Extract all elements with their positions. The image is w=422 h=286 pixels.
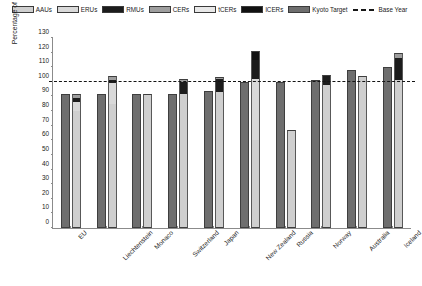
bar-group bbox=[196, 38, 232, 228]
legend-dashed-line-icon bbox=[353, 6, 377, 13]
x-axis-tick-mark bbox=[177, 226, 178, 229]
kyoto-target-bar bbox=[168, 94, 177, 228]
legend-item-rmus: RMUs bbox=[102, 6, 144, 13]
y-axis-tick-label: 130 bbox=[23, 29, 49, 35]
bar-segment-erus bbox=[108, 83, 117, 103]
legend-swatch-erus-icon bbox=[57, 6, 79, 13]
bar-segment-erus bbox=[251, 79, 260, 140]
kyoto-target-bar bbox=[311, 80, 320, 228]
kyoto-target-bar bbox=[204, 91, 213, 228]
bar-segment-rmus bbox=[179, 82, 188, 94]
kyoto-target-bar bbox=[97, 94, 106, 228]
stacked-emissions-bar bbox=[108, 76, 117, 228]
bar-group bbox=[232, 38, 268, 228]
kyoto-target-bar bbox=[276, 82, 285, 228]
base-year-dashed-line bbox=[49, 81, 415, 82]
bar-segment-aaus bbox=[215, 92, 224, 228]
legend-item-erus: ERUs bbox=[57, 6, 97, 13]
x-axis-tick-mark bbox=[106, 226, 107, 229]
plot-area: Percentage of base year emissions (%) 01… bbox=[52, 38, 411, 229]
x-axis-label: Switzerland bbox=[191, 229, 220, 258]
y-axis-title: Percentage of base year emissions (%) bbox=[11, 0, 19, 70]
legend-label-lcers: lCERs bbox=[265, 6, 283, 13]
x-axis-label: Russia bbox=[295, 229, 314, 248]
legend-label-tcers: tCERs bbox=[218, 6, 236, 13]
y-axis-tick-label: 110 bbox=[23, 58, 49, 64]
legend-label-erus: ERUs bbox=[81, 6, 97, 13]
legend-label-aaus: AAUs bbox=[36, 6, 52, 13]
stacked-emissions-bar bbox=[358, 76, 367, 228]
x-axis-label: EU bbox=[77, 229, 88, 240]
bar-group bbox=[125, 38, 161, 228]
bar-segment-aaus bbox=[251, 140, 260, 228]
bar-segment-aaus bbox=[322, 85, 331, 228]
legend-swatch-tcers-icon bbox=[194, 6, 216, 13]
bar-segment-aaus bbox=[287, 130, 296, 228]
y-axis-tick-label: 120 bbox=[23, 44, 49, 50]
x-axis-tick-mark bbox=[142, 226, 143, 229]
y-axis-tick-label: 70 bbox=[23, 117, 49, 123]
bar-segment-aaus bbox=[72, 111, 81, 228]
bar-segment-aaus bbox=[394, 80, 403, 228]
legend-label-rmus: RMUs bbox=[126, 6, 144, 13]
stacked-emissions-bar bbox=[251, 51, 260, 228]
y-axis-tick-label: 10 bbox=[23, 204, 49, 210]
y-axis-tick-label: 20 bbox=[23, 190, 49, 196]
stacked-emissions-bar bbox=[179, 79, 188, 228]
stacked-emissions-bar bbox=[72, 94, 81, 228]
stacked-emissions-bar bbox=[287, 130, 296, 228]
chart-legend: AAUs ERUs RMUs CERs tCERs lCERs Kyoto Ta… bbox=[0, 6, 419, 13]
legend-item-base-year: Base Year bbox=[353, 6, 408, 13]
legend-item-lcers: lCERs bbox=[241, 6, 283, 13]
y-axis-tick-label: 80 bbox=[23, 102, 49, 108]
x-axis-tick-mark bbox=[285, 226, 286, 229]
y-axis-tick-label: 90 bbox=[23, 87, 49, 93]
bar-segment-lcers bbox=[251, 51, 260, 60]
legend-label-kyoto-target: Kyoto Target bbox=[312, 6, 347, 13]
bar-groups bbox=[53, 38, 411, 228]
bar-group bbox=[375, 38, 411, 228]
legend-label-cers: CERs bbox=[173, 6, 189, 13]
stacked-emissions-bar bbox=[394, 53, 403, 228]
x-axis-labels: EULiechtensteinMonacoSwitzerlandJapanNew… bbox=[52, 229, 410, 285]
bar-segment-aaus bbox=[108, 104, 117, 228]
bar-group bbox=[304, 38, 340, 228]
legend-swatch-lcers-icon bbox=[241, 6, 263, 13]
kyoto-target-bar bbox=[132, 94, 141, 228]
x-axis-label: New Zealand bbox=[264, 229, 296, 261]
bar-segment-erus bbox=[72, 102, 81, 111]
y-axis-tick-label: 30 bbox=[23, 175, 49, 181]
stacked-emissions-bar bbox=[143, 94, 152, 228]
bar-segment-rmus bbox=[251, 60, 260, 79]
bar-group bbox=[160, 38, 196, 228]
legend-item-kyoto-target: Kyoto Target bbox=[288, 6, 347, 13]
bar-segment-rmus bbox=[394, 58, 403, 80]
x-axis-tick-mark bbox=[392, 226, 393, 229]
kyoto-target-bar bbox=[240, 82, 249, 228]
bar-segment-aaus bbox=[179, 94, 188, 228]
legend-item-tcers: tCERs bbox=[194, 6, 236, 13]
x-axis-label: Liechtenstein bbox=[121, 229, 153, 261]
bar-segment-aaus bbox=[143, 94, 152, 228]
bar-group bbox=[53, 38, 89, 228]
x-axis-label: Norway bbox=[331, 229, 352, 250]
y-axis-tick-label: 50 bbox=[23, 146, 49, 152]
x-axis-tick-mark bbox=[249, 226, 250, 229]
x-axis-tick-mark bbox=[70, 226, 71, 229]
x-axis-label: Australia bbox=[368, 229, 391, 252]
legend-label-base-year: Base Year bbox=[379, 6, 408, 13]
bar-group bbox=[268, 38, 304, 228]
x-axis-label: Iceland bbox=[402, 229, 422, 249]
y-axis-tick-label: 40 bbox=[23, 161, 49, 167]
x-axis-label: Japan bbox=[222, 229, 240, 247]
legend-item-cers: CERs bbox=[149, 6, 189, 13]
stacked-emissions-bar bbox=[322, 75, 331, 228]
x-axis-label: Monaco bbox=[152, 229, 174, 251]
x-axis-tick-mark bbox=[356, 226, 357, 229]
legend-swatch-rmus-icon bbox=[102, 6, 124, 13]
bar-segment-aaus bbox=[358, 76, 367, 228]
x-axis-tick-mark bbox=[213, 226, 214, 229]
legend-swatch-kyoto-target-icon bbox=[288, 6, 310, 13]
y-axis-tick-label: 60 bbox=[23, 131, 49, 137]
